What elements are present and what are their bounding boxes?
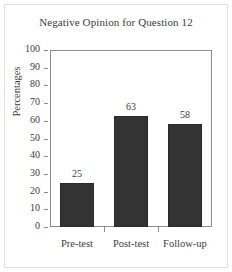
y-tick-label: 60	[30, 114, 40, 125]
y-tick-mark	[44, 68, 48, 69]
y-tick-label: 10	[30, 202, 40, 213]
bar[interactable]	[114, 116, 148, 228]
y-tick-mark	[44, 209, 48, 210]
y-tick-label: 80	[30, 78, 40, 89]
x-axis-category-label: Follow-up	[158, 238, 212, 249]
bar[interactable]	[168, 124, 202, 227]
x-tick-mark	[104, 227, 105, 232]
x-axis-category-label: Post-test	[104, 238, 158, 249]
y-tick-mark	[44, 50, 48, 51]
bar-group: 25	[50, 50, 104, 227]
y-tick-label: 50	[30, 132, 40, 143]
x-axis-category-label: Pre-test	[50, 238, 104, 249]
y-tick-mark	[44, 227, 48, 228]
bar-value-label: 63	[126, 101, 136, 112]
y-tick-label: 0	[35, 220, 40, 231]
y-tick-mark	[44, 121, 48, 122]
y-tick-label: 40	[30, 149, 40, 160]
y-tick-mark	[44, 174, 48, 175]
plot-area: 256358	[50, 50, 212, 227]
bar-group: 63	[104, 50, 158, 227]
y-tick-mark	[44, 85, 48, 86]
chart-title: Negative Opinion for Question 12	[0, 16, 232, 28]
bar-group: 58	[158, 50, 212, 227]
bar-value-label: 25	[72, 168, 82, 179]
x-tick-mark	[158, 227, 159, 232]
y-tick-mark	[44, 156, 48, 157]
y-tick-label: 70	[30, 96, 40, 107]
y-tick-label: 30	[30, 167, 40, 178]
bar[interactable]	[60, 183, 94, 227]
y-tick-mark	[44, 103, 48, 104]
y-tick-label: 90	[30, 61, 40, 72]
y-tick-mark	[44, 139, 48, 140]
y-tick-label: 20	[30, 185, 40, 196]
y-tick-label: 100	[25, 43, 40, 54]
chart-figure: Negative Opinion for Question 12 Percent…	[0, 0, 232, 272]
y-tick-mark	[44, 192, 48, 193]
y-axis-label: Percentages	[11, 12, 22, 172]
bar-value-label: 58	[180, 109, 190, 120]
